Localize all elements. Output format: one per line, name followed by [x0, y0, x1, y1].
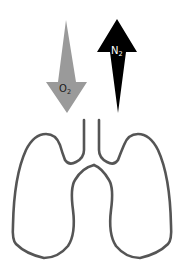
gas-exchange-diagram: O2 N2: [0, 0, 184, 274]
o2-arrow-shape: [46, 20, 87, 113]
left-lung-outline: [13, 120, 94, 258]
right-lung-outline: [94, 120, 171, 258]
lungs-icon: [13, 120, 171, 258]
n2-arrow: N2: [97, 19, 137, 113]
o2-arrow: O2: [46, 20, 87, 113]
n2-arrow-shape: [97, 19, 137, 113]
